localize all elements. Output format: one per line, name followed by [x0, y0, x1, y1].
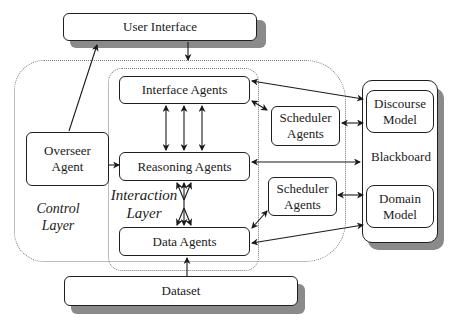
- arrow-interface-scheduler-top: [252, 101, 267, 110]
- arrow-data-scheduler-bottom: [252, 211, 267, 228]
- arrow-data-domain: [252, 225, 363, 243]
- arrow-reasoning-data-left: [177, 183, 184, 200]
- arrow-reasoning-data-right: [184, 183, 191, 200]
- arrow-overseer-to-ui: [69, 45, 97, 131]
- arrow-interface-discourse: [252, 81, 363, 99]
- arrow-data-reasoning-left: [177, 208, 184, 225]
- arrow-data-reasoning-right: [184, 208, 191, 225]
- connector-arrows: [0, 0, 455, 329]
